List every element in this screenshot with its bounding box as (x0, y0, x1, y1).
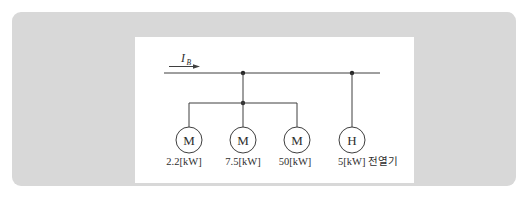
load-symbol: M (291, 133, 303, 148)
load-branch-motor-2: M 7.5[kW] (225, 103, 260, 167)
load-symbol: M (237, 133, 249, 148)
bus-current-label: IB (180, 51, 192, 67)
load-branch-motor-3: M 50[kW] (279, 103, 312, 167)
screenshot-root: { "panel": { "background_color": "#d8d8d… (0, 0, 529, 198)
current-symbol: I (180, 51, 186, 65)
diagram-canvas: IB M 2.2[kW] (135, 37, 414, 183)
load-symbol: H (347, 133, 356, 148)
gray-panel: IB M 2.2[kW] (12, 12, 516, 186)
load-rating-label: 7.5[kW] (225, 156, 260, 167)
load-symbol: M (183, 133, 195, 148)
load-rating-label: 5[kW] 전열기 (338, 156, 398, 167)
load-rating-label: 2.2[kW] (166, 156, 201, 167)
load-rating-label: 50[kW] (279, 156, 312, 167)
load-branch-heater: H 5[kW] 전열기 (338, 73, 398, 167)
circuit-diagram: IB M 2.2[kW] (135, 37, 414, 183)
current-subscript: B (187, 58, 192, 67)
load-branch-motor-1: M 2.2[kW] (166, 103, 202, 167)
